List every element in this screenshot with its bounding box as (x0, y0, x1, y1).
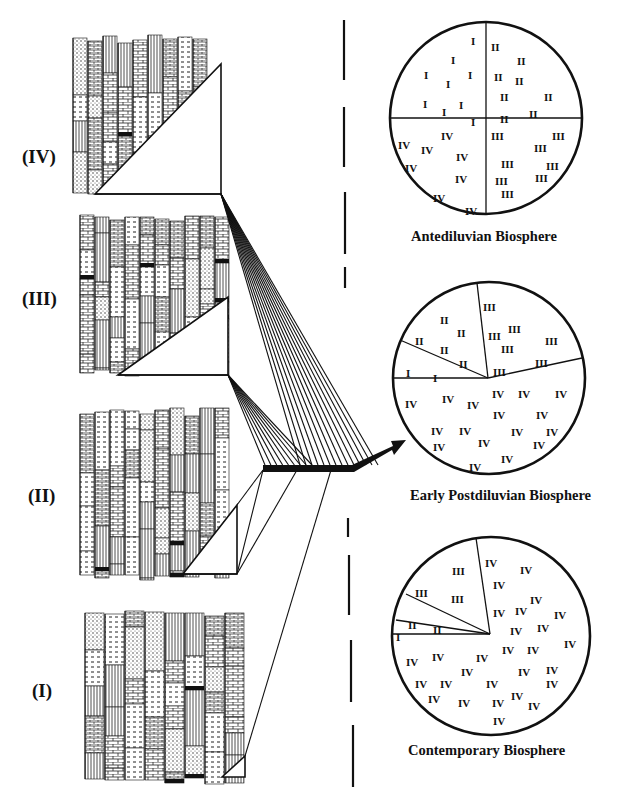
biosphere-succession-diagram: IIIIIIIIIIIIIIIIIIIIIIIIIIIIIIIIIIIIIIII… (0, 0, 625, 809)
era-label-iv: IV (528, 700, 540, 712)
strata-column-group-ii (80, 408, 237, 580)
era-label-iv: IV (469, 461, 481, 473)
era-label-i: I (468, 69, 472, 81)
era-label-i: I (459, 99, 463, 111)
era-label-iv: IV (467, 399, 479, 411)
era-label-iii: III (546, 160, 559, 172)
era-label-iii: III (501, 343, 514, 355)
era-label-ii: II (544, 91, 553, 103)
era-label-iv: IV (442, 393, 454, 405)
era-label-iv: IV (502, 644, 514, 656)
era-label-iii: III (491, 130, 504, 142)
era-label-iv: IV (428, 693, 440, 705)
era-label-iv: IV (546, 678, 558, 690)
era-label-iv: IV (405, 162, 417, 174)
era-label-iii: III (488, 330, 501, 342)
era-label-i: I (396, 631, 400, 643)
era-label-iii: III (495, 175, 508, 187)
era-label-ii: II (515, 75, 524, 87)
era-label-iv: IV (432, 651, 444, 663)
era-label-iv: IV (405, 398, 417, 410)
era-label-ii: II (440, 314, 449, 326)
era-label-iv: IV (433, 192, 445, 204)
section-label-iv: (IV) (22, 146, 56, 168)
era-label-iii: III (452, 565, 465, 577)
era-label-iv: IV (555, 388, 567, 400)
era-label-ii: II (500, 113, 509, 125)
biosphere-pie-1: IIIIIIIIIIIIIIIIIIIIIIIIIIIIIIIIIIVIVIVI… (393, 282, 585, 474)
strata-column-group-i (85, 611, 245, 784)
biosphere-pie-0: IIIIIIIIIIIIIIIIIIIIIIIIIIIIIIIIIIIIIIII… (390, 22, 582, 217)
era-label-ii: II (517, 55, 526, 67)
era-label-iv: IV (431, 425, 443, 437)
era-label-iv: IV (518, 388, 530, 400)
section-label-ii: (II) (28, 485, 55, 507)
era-label-iv: IV (536, 409, 548, 421)
era-label-iv: IV (465, 205, 477, 217)
era-label-iv: IV (537, 622, 549, 634)
era-label-iv: IV (455, 173, 467, 185)
era-label-iv: IV (564, 638, 576, 650)
era-label-iv: IV (511, 426, 523, 438)
era-label-iii: III (415, 587, 428, 599)
era-label-iii: III (535, 172, 548, 184)
strata-column-group-iv (73, 35, 221, 194)
era-label-ii: II (457, 327, 466, 339)
connector-fan-lines (221, 194, 378, 756)
era-label-ii: II (408, 619, 417, 631)
era-label-iv: IV (527, 644, 539, 656)
era-label-iv: IV (511, 690, 523, 702)
strata-column-group-iii (80, 215, 229, 376)
era-label-iv: IV (406, 656, 418, 668)
caption-contemporary: Contemporary Biosphere (408, 742, 565, 759)
era-label-iv: IV (476, 652, 488, 664)
era-label-iv: IV (501, 453, 513, 465)
era-label-i: I (471, 35, 475, 47)
era-label-ii: II (529, 108, 538, 120)
era-label-iv: IV (530, 594, 542, 606)
caption-early-postdiluvian: Early Postdiluvian Biosphere (410, 487, 591, 504)
era-label-iv: IV (485, 557, 497, 569)
era-label-i: I (442, 106, 446, 118)
era-label-iv: IV (492, 388, 504, 400)
era-label-iv: IV (492, 697, 504, 709)
era-label-ii: II (500, 91, 509, 103)
era-label-iv: IV (493, 715, 505, 727)
section-label-iii: (III) (22, 288, 57, 310)
era-label-iv: IV (554, 609, 566, 621)
era-label-iii: III (493, 366, 506, 378)
era-label-iv: IV (510, 625, 522, 637)
era-label-iii: III (501, 158, 514, 170)
era-label-iv: IV (421, 144, 433, 156)
era-label-iv: IV (433, 441, 445, 453)
era-label-i: I (423, 98, 427, 110)
era-label-iii: III (545, 335, 558, 347)
caption-antediluvian: Antediluvian Biosphere (411, 228, 557, 245)
era-label-iii: III (451, 593, 464, 605)
era-label-iv: IV (478, 437, 490, 449)
era-label-iii: III (552, 130, 565, 142)
era-label-iv: IV (461, 666, 473, 678)
diagram-canvas: IIIIIIIIIIIIIIIIIIIIIIIIIIIIIIIIIIIIIIII… (0, 0, 625, 809)
biosphere-pie-charts: IIIIIIIIIIIIIIIIIIIIIIIIIIIIIIIIIIIIIIII… (390, 22, 590, 735)
era-label-iv: IV (518, 666, 530, 678)
era-label-i: I (424, 69, 428, 81)
era-label-ii: II (459, 358, 468, 370)
era-label-i: I (433, 372, 437, 384)
era-label-iv: IV (398, 139, 410, 151)
era-label-iv: IV (546, 426, 558, 438)
era-label-iv: IV (415, 678, 427, 690)
era-label-iv: IV (493, 409, 505, 421)
section-label-i: (I) (32, 680, 52, 702)
era-label-iv: IV (486, 678, 498, 690)
era-label-iv: IV (546, 664, 558, 676)
era-label-iii: III (501, 188, 514, 200)
era-label-iv: IV (493, 579, 505, 591)
era-label-ii: II (494, 71, 503, 83)
dashed-divider (344, 20, 353, 787)
era-label-i: I (471, 116, 475, 128)
era-label-iv: IV (459, 425, 471, 437)
era-label-i: I (406, 367, 410, 379)
era-label-iii: III (534, 142, 547, 154)
era-label-iii: III (535, 357, 548, 369)
